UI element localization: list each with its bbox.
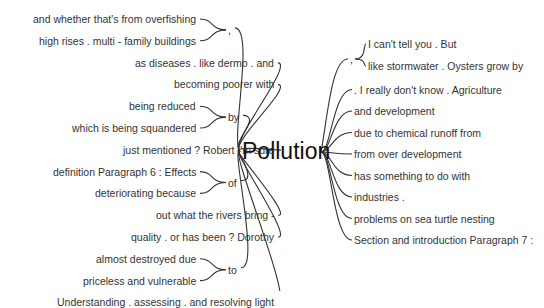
left-connector-word[interactable]: by bbox=[228, 111, 239, 123]
left-phrase[interactable]: priceless and vulnerable bbox=[83, 275, 196, 287]
left-phrase[interactable]: being reduced bbox=[129, 100, 196, 112]
left-phrase[interactable]: which is being squandered bbox=[72, 122, 196, 134]
branch-line bbox=[200, 19, 226, 30]
left-phrase[interactable]: and whether that's from overfishing bbox=[33, 13, 196, 25]
left-phrase[interactable]: quality . or has been ? Dorothy bbox=[131, 231, 274, 243]
branch-line bbox=[200, 183, 226, 194]
right-phrase[interactable]: . I really don't know . Agriculture bbox=[354, 84, 502, 96]
right-phrase[interactable]: and development bbox=[354, 105, 435, 117]
branch-line bbox=[200, 106, 226, 117]
right-phrase[interactable]: like stormwater . Oysters grow by bbox=[368, 60, 523, 72]
left-phrase[interactable]: high rises . multi - family buildings bbox=[39, 35, 196, 47]
right-phrase[interactable]: I can't tell you . But bbox=[368, 38, 456, 50]
left-phrase[interactable]: almost destroyed due bbox=[96, 253, 196, 265]
left-phrase[interactable]: out what the rivers bring - bbox=[156, 209, 274, 221]
right-phrase[interactable]: problems on sea turtle nesting bbox=[354, 213, 495, 225]
left-phrase[interactable]: Understanding . assessing . and resolvin… bbox=[57, 296, 274, 308]
left-phrase[interactable]: becoming poorer with bbox=[174, 78, 274, 90]
branch-line bbox=[200, 117, 226, 128]
right-phrase[interactable]: has something to do with bbox=[354, 170, 470, 182]
branch-line bbox=[200, 172, 226, 183]
branch-line bbox=[355, 44, 366, 59]
left-phrase[interactable]: just mentioned ? Robert I'm sure bbox=[123, 144, 274, 156]
left-connector-word[interactable]: of bbox=[228, 177, 237, 189]
left-connector-word[interactable]: to bbox=[228, 264, 237, 276]
right-phrase[interactable]: industries . bbox=[354, 191, 405, 203]
left-connector-word[interactable]: , bbox=[228, 24, 231, 36]
right-phrase[interactable]: Section and introduction Paragraph 7 : bbox=[354, 234, 533, 246]
left-phrase[interactable]: as diseases . like dermo . and bbox=[135, 57, 274, 69]
branch-line bbox=[200, 259, 226, 270]
right-phrase[interactable]: from over development bbox=[354, 148, 461, 160]
branch-line bbox=[239, 152, 281, 291]
branch-line bbox=[239, 152, 281, 238]
left-phrase[interactable]: deteriorating because bbox=[95, 187, 196, 199]
left-phrase[interactable]: definition Paragraph 6 : Effects bbox=[53, 166, 196, 178]
branch-line bbox=[200, 270, 226, 281]
right-phrase[interactable]: due to chemical runoff from bbox=[354, 127, 481, 139]
branch-line bbox=[355, 59, 366, 66]
branch-line bbox=[200, 30, 226, 41]
right-connector-word[interactable]: , bbox=[350, 53, 353, 65]
